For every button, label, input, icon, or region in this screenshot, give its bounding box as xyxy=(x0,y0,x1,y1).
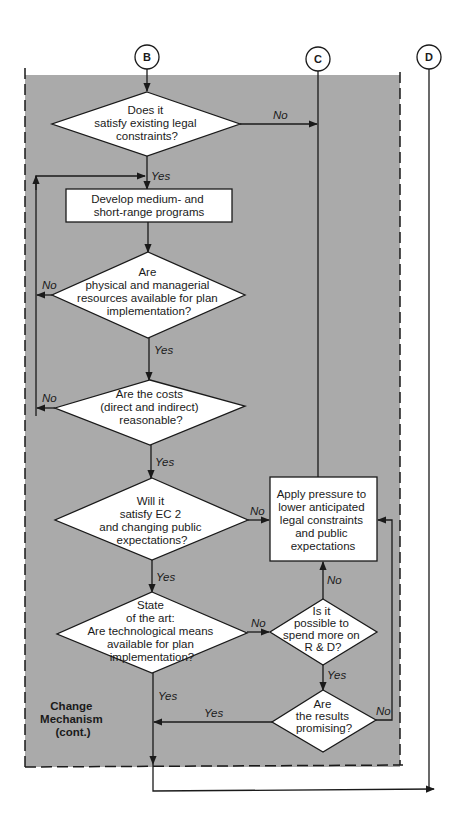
svg-text:Develop medium- and shor: Develop medium- and short-range programs xyxy=(91,193,207,218)
svg-text:C: C xyxy=(314,53,322,65)
connector-d: D xyxy=(417,45,441,69)
label-state-no: No xyxy=(251,617,266,629)
flowchart: Change Mechanism (cont.) B C D Does it s… xyxy=(0,0,468,830)
label-costs-yes: Yes xyxy=(155,456,174,468)
label-results-no: No xyxy=(376,705,391,717)
arrow-exit-to-d xyxy=(153,764,434,791)
label-ec2-no: No xyxy=(250,505,265,517)
svg-text:B: B xyxy=(143,51,151,63)
process-apply-pressure: Apply pressure to lower anticipated lega… xyxy=(270,477,377,561)
label-ec2-yes: Yes xyxy=(156,571,175,583)
change-mechanism-region xyxy=(25,75,400,767)
svg-text:D: D xyxy=(425,51,433,63)
process-develop-programs: Develop medium- and short-range programs xyxy=(66,189,232,222)
label-state-yes: Yes xyxy=(158,690,177,702)
label-costs-no: No xyxy=(42,392,57,404)
label-resources-no: No xyxy=(42,279,57,291)
label-resources-yes: Yes xyxy=(154,344,173,356)
label-rnd-no: No xyxy=(327,574,342,586)
label-legal-yes: Yes xyxy=(151,170,170,182)
label-rnd-yes: Yes xyxy=(327,669,346,681)
connector-c: C xyxy=(306,47,330,71)
label-legal-no: No xyxy=(273,109,288,121)
label-results-yes: Yes xyxy=(204,707,223,719)
connector-b: B xyxy=(135,45,159,69)
